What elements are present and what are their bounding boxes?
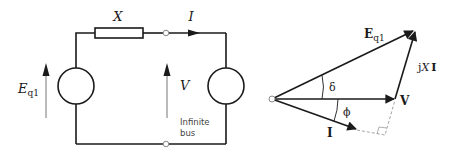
diagram-canvas: X I Eq1 V Infinite bus Eq1 (0, 0, 454, 153)
jxi-phasor (395, 32, 415, 99)
projection-dashed-line (357, 100, 395, 135)
phasor-diagram: Eq1 jXI V I δ ϕ (269, 27, 436, 140)
bus-voltage-label: V (180, 78, 191, 93)
wire-top-left (76, 33, 95, 68)
generator-source-icon (58, 68, 94, 104)
eq1-phasor (272, 31, 413, 99)
reactance-label: X (112, 9, 123, 24)
i-label: I (327, 126, 333, 140)
phi-label: ϕ (343, 106, 351, 119)
source-label: Eq1 (17, 81, 39, 98)
source-voltage-arrow-icon (43, 63, 50, 76)
bottom-terminal-node (163, 141, 169, 147)
reactance-box (95, 28, 143, 38)
delta-angle-arc (322, 75, 323, 99)
infinite-bus-caption: Infinite bus (180, 117, 212, 138)
current-label: I (187, 9, 194, 24)
eq1-label: Eq1 (364, 27, 385, 43)
jxi-label: jXI (416, 61, 436, 74)
infinite-bus-source-icon (208, 68, 244, 104)
phi-angle-arc (334, 99, 338, 121)
bus-voltage-arrow-icon (164, 63, 171, 76)
delta-label: δ (329, 81, 336, 94)
top-terminal-node (163, 30, 169, 36)
v-label: V (399, 94, 410, 108)
circuit-diagram: X I Eq1 V Infinite bus (17, 9, 244, 147)
origin-node (269, 96, 275, 102)
current-arrow-icon (188, 30, 200, 37)
